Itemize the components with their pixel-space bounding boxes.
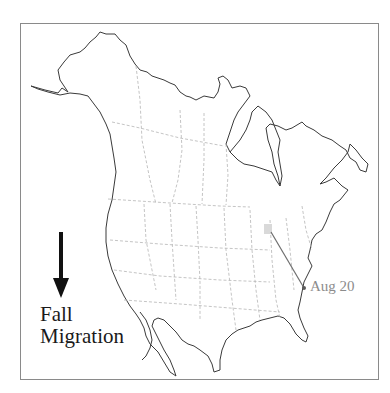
migration-date-label: Aug 20 [310,278,355,295]
political-borders [108,66,312,330]
legend-title-line1: Fall [40,303,124,325]
migration-path-line [271,232,304,288]
migration-endpoint-marker [302,286,306,290]
legend-title-line2: Migration [40,325,124,347]
arrow-down-icon [53,232,69,298]
legend-title: Fall Migration [40,303,124,347]
hudson-bay-coast [230,106,282,186]
